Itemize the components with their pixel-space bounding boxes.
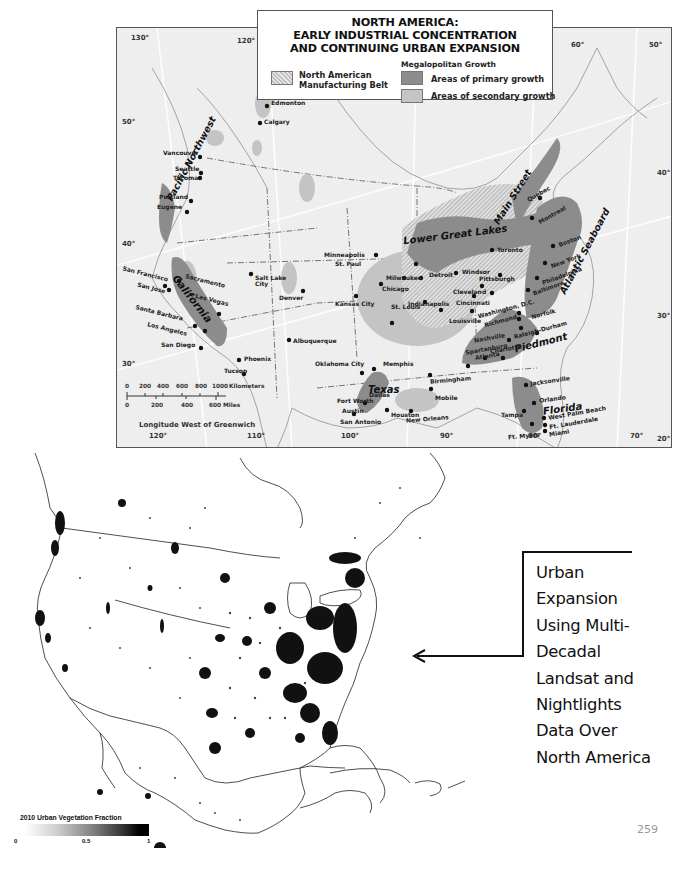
scale-km-tick: 800 xyxy=(195,383,207,389)
annotation-line: Using Multi- xyxy=(536,613,686,639)
map-title-line-1: NORTH AMERICA: xyxy=(258,16,552,29)
annotation-line: Nightlights xyxy=(536,692,686,718)
legend-label-belt-line-2: Manufacturing Belt xyxy=(299,80,388,90)
city-label: Pittsburgh xyxy=(479,276,515,282)
city-label: Calgary xyxy=(264,119,290,125)
city-label: Detroit xyxy=(429,272,453,278)
city-label: Oklahoma City xyxy=(315,361,364,367)
city-label: Denver xyxy=(279,295,303,301)
scale-mi-tick: 0 xyxy=(125,402,129,408)
latitude-label-30-left: 30° xyxy=(122,361,135,368)
map-title-legend-box: NORTH AMERICA: EARLY INDUSTRIAL CONCENTR… xyxy=(257,10,553,100)
longitude-label-90-bottom: 90° xyxy=(440,433,453,440)
latitude-label-20-right: 20° xyxy=(657,436,670,443)
city-label: Seattle xyxy=(175,166,199,172)
longitude-label-100-bottom: 100° xyxy=(341,433,359,440)
longitude-axis-title: Longitude West of Greenwich xyxy=(139,421,255,429)
scale-km-tick: 1000 xyxy=(212,383,228,389)
city-label: Tucson xyxy=(224,368,247,374)
scale-mi-tick: 600 xyxy=(209,402,221,408)
annotation-line: Expansion xyxy=(536,586,686,612)
city-label: Milwaukee xyxy=(386,275,422,281)
legend-label-belt-line-1: North American xyxy=(299,70,372,80)
legend-label-secondary-growth: Areas of secondary growth xyxy=(431,91,555,101)
vegetation-fraction-legend: 2010 Urban Vegetation Fraction 0 0.5 1 xyxy=(10,814,145,844)
scale-km-tick: 0 xyxy=(125,383,129,389)
city-label: Albuquerque xyxy=(293,338,337,344)
city-label: Portland xyxy=(159,194,188,200)
city-label: Eugene xyxy=(157,204,182,210)
city-label: St. Louis xyxy=(391,304,420,310)
map-title-line-3: AND CONTINUING URBAN EXPANSION xyxy=(258,42,552,55)
scale-mi-tick: 200 xyxy=(151,402,163,408)
scale-km-tick: 600 xyxy=(176,383,188,389)
latitude-label-50-left: 50° xyxy=(122,119,135,126)
annotation-line: North America xyxy=(536,745,686,771)
city-label: Dallas xyxy=(369,392,390,398)
city-label: Edmonton xyxy=(271,100,305,106)
city-label: Minneapolis xyxy=(324,252,365,258)
scale-mi-unit: Miles xyxy=(223,402,240,408)
legend-group-heading: Megalopolitan Growth xyxy=(401,60,496,69)
latitude-label-40-right: 40° xyxy=(657,170,670,177)
legend-label-primary-growth: Areas of primary growth xyxy=(431,74,544,84)
annotation-line: Landsat and xyxy=(536,666,686,692)
city-label: St. Paul xyxy=(335,261,361,267)
longitude-label-50-top: 50° xyxy=(649,42,662,49)
city-label: Salt Lake City xyxy=(255,275,289,287)
longitude-label-120-top: 120° xyxy=(237,38,255,45)
scale-km-tick: 200 xyxy=(139,383,151,389)
vegetation-legend-tick-1: 1 xyxy=(147,838,150,844)
latitude-label-30-right: 30° xyxy=(657,313,670,320)
scale-mi-tick: 400 xyxy=(181,402,193,408)
city-label: Memphis xyxy=(383,361,414,367)
scale-km-unit: Kilometers xyxy=(229,383,264,389)
annotation-caption: Urban Expansion Using Multi- Decadal Lan… xyxy=(536,560,686,771)
annotation-line: Data Over xyxy=(536,718,686,744)
vegetation-legend-title: 2010 Urban Vegetation Fraction xyxy=(20,814,122,821)
city-label: Tacoma xyxy=(173,175,198,181)
city-label: Louisville xyxy=(449,318,481,324)
city-label: Tampa xyxy=(501,412,523,418)
longitude-label-110-bottom: 110° xyxy=(247,433,265,440)
city-label: Phoenix xyxy=(244,356,271,362)
annotation-line: Decadal xyxy=(536,639,686,665)
city-label: Chicago xyxy=(382,286,409,292)
page-number: 259 xyxy=(637,823,658,836)
city-label: Kansas City xyxy=(335,301,375,307)
longitude-label-130-top: 130° xyxy=(131,35,149,42)
legend-swatch-secondary-growth xyxy=(401,89,423,103)
vegetation-legend-tick-0: 0 xyxy=(14,838,17,844)
longitude-label-120-bottom: 120° xyxy=(149,433,167,440)
city-label: Cleveland xyxy=(453,289,486,295)
latitude-label-40-left: 40° xyxy=(122,241,135,248)
scale-km-tick: 400 xyxy=(157,383,169,389)
longitude-label-60-top: 60° xyxy=(571,42,584,49)
vegetation-legend-tick-05: 0.5 xyxy=(82,838,90,844)
map-title-line-2: EARLY INDUSTRIAL CONCENTRATION xyxy=(258,29,552,42)
vegetation-legend-gradient-bar xyxy=(25,824,149,836)
city-label: Vancouver xyxy=(163,150,199,156)
city-label: San Diego xyxy=(161,342,195,348)
longitude-label-70-bottom: 70° xyxy=(630,433,643,440)
scale-bar-line xyxy=(125,391,235,401)
city-label: Cincinnati xyxy=(456,300,490,306)
legend-swatch-primary-growth xyxy=(401,71,423,85)
city-label: Mobile xyxy=(435,395,458,401)
legend-swatch-manufacturing-belt xyxy=(271,71,293,85)
city-label: Toronto xyxy=(497,247,523,253)
annotation-line: Urban xyxy=(536,560,686,586)
